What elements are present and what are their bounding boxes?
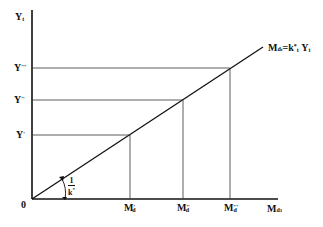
y-level-2-label: Y'' xyxy=(14,95,25,105)
x-level-1-label: M'd xyxy=(124,203,135,213)
angle-arc-icon xyxy=(62,179,66,199)
slope-label: 1 k* xyxy=(68,177,75,197)
origin-label: 0 xyxy=(21,200,26,210)
line-equation-label: Mdt=k*t Yt xyxy=(268,42,310,53)
demand-line xyxy=(32,47,263,199)
y-level-1-label: Y' xyxy=(16,130,25,140)
x-level-2-label: M''d xyxy=(177,203,189,213)
y-level-3-label: Y''' xyxy=(14,63,26,73)
diagram-canvas xyxy=(0,0,323,227)
x-axis-label: Md1 xyxy=(267,203,282,214)
x-level-3-label: M'''d xyxy=(224,203,237,213)
y-axis-label: Yt xyxy=(15,12,24,22)
